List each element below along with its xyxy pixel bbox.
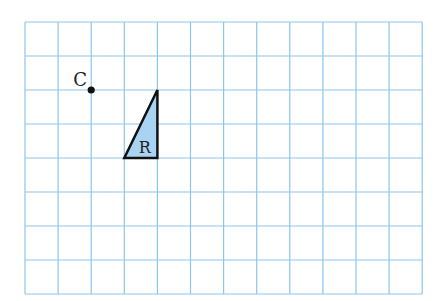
point-label: C	[73, 69, 87, 90]
grid-diagram: R C	[0, 0, 438, 301]
grid-lines	[25, 22, 422, 294]
triangle-label: R	[139, 138, 152, 157]
point-c	[88, 86, 95, 93]
